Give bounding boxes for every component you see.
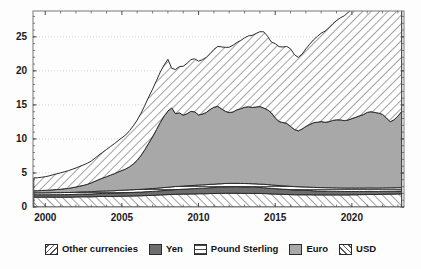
solid-dark-swatch-icon [149, 244, 162, 255]
x-tick-label: 2020 [341, 212, 364, 223]
legend-item-yen[interactable]: Yen [149, 244, 183, 255]
plot-area: 0510152025 20002005201020152020 [0, 0, 421, 232]
x-tick-label: 2010 [187, 212, 210, 223]
chart-svg: 0510152025 20002005201020152020 [0, 0, 421, 232]
solid-gray-swatch-icon [289, 244, 302, 255]
y-tick-label: 5 [21, 167, 27, 178]
hatch-backslash-swatch-icon [45, 244, 58, 255]
x-tick-label: 2005 [111, 212, 134, 223]
x-tick-label: 2015 [264, 212, 287, 223]
chart-legend: Other currencies Yen Pound Sterling Euro… [0, 234, 421, 264]
y-tick-label: 0 [21, 201, 27, 212]
legend-label-euro: Euro [306, 244, 328, 254]
legend-label-pound-sterling: Pound Sterling [211, 244, 279, 254]
legend-item-usd[interactable]: USD [339, 244, 376, 255]
legend-label-usd: USD [356, 244, 376, 254]
hatch-forwardslash-swatch-icon [339, 244, 352, 255]
y-tick-label: 10 [16, 133, 28, 144]
y-tick-label: 15 [16, 99, 28, 110]
legend-item-pound-sterling[interactable]: Pound Sterling [194, 244, 279, 255]
legend-item-euro[interactable]: Euro [289, 244, 328, 255]
stacked-area-chart: 0510152025 20002005201020152020 Other cu… [0, 0, 421, 269]
legend-label-other-currencies: Other currencies [62, 244, 138, 254]
y-tick-label: 20 [16, 65, 28, 76]
x-tick-label: 2000 [34, 212, 57, 223]
legend-item-other-currencies[interactable]: Other currencies [45, 244, 138, 255]
y-tick-label: 25 [16, 31, 28, 42]
horizontal-lines-swatch-icon [194, 244, 207, 255]
legend-label-yen: Yen [166, 244, 183, 254]
